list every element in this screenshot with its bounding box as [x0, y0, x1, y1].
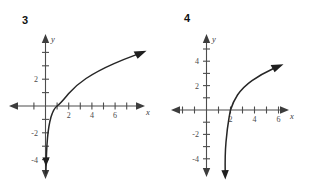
coordinate-plane-4: 2 4 6 4 2 -2 -4 x y [162, 0, 325, 183]
curve-arrow-bottom [42, 157, 49, 166]
x-tick-label-4: 4 [90, 111, 94, 120]
y-tick-label-2: 2 [195, 82, 199, 91]
y-tick-label-2: 2 [34, 75, 38, 84]
x-axis-arrow-right [280, 106, 289, 114]
graph-4: 2 4 6 4 2 -2 -4 x y [162, 0, 325, 183]
y-axis-arrow-up [42, 34, 49, 43]
curve-arrow-upper-right [271, 64, 284, 72]
y-axis-label: y [211, 34, 216, 44]
x-axis-label: x [289, 111, 294, 121]
y-axis-label: y [50, 34, 55, 44]
graph-3: 2 4 6 2 -2 -4 x y [0, 0, 163, 183]
y-tick-label--4: -4 [192, 155, 199, 164]
figure-panel-3: 3 2 4 6 2 -2 -4 [0, 0, 163, 183]
x-tick-label-6: 6 [113, 111, 117, 120]
curve-arrow-bottom [221, 170, 228, 180]
figure-panel-4: 4 2 4 6 4 2 -2 [162, 0, 325, 183]
x-axis-arrow-left [171, 106, 180, 114]
x-axis-label: x [145, 107, 150, 117]
x-axis-arrow-left [9, 102, 18, 110]
y-axis-arrow-down [203, 168, 210, 177]
y-tick-label--4: -4 [31, 156, 38, 165]
x-tick-label-2: 2 [67, 111, 71, 120]
y-tick-label--2: -2 [192, 130, 199, 139]
curve-arrow-upper-right [134, 51, 147, 59]
x-tick-label-6: 6 [277, 115, 281, 124]
y-axis-arrow-up [203, 34, 210, 43]
y-tick-label-4: 4 [195, 57, 199, 66]
coordinate-plane-3: 2 4 6 2 -2 -4 x y [0, 0, 163, 183]
x-tick-label-4: 4 [253, 115, 257, 124]
y-tick-label--2: -2 [31, 129, 38, 138]
x-axis-arrow-right [136, 102, 145, 110]
